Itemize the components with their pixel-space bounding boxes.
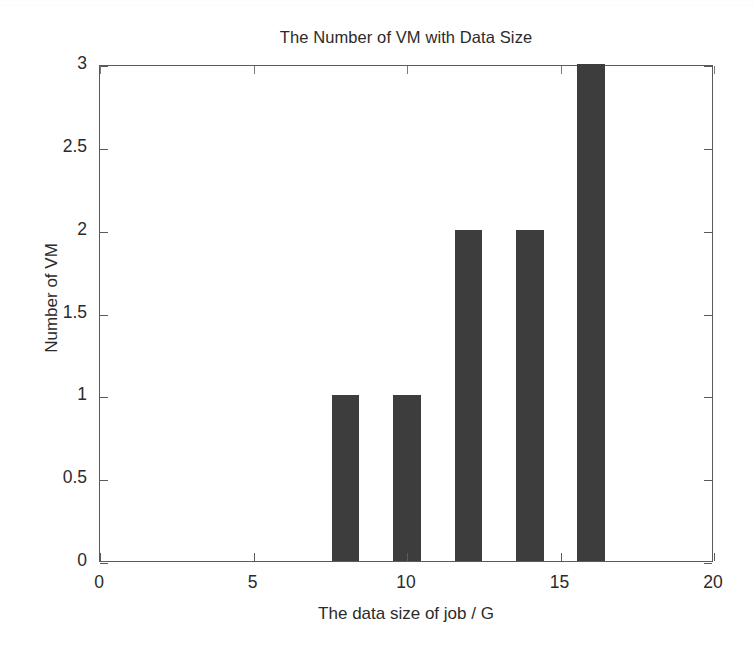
x-axis-tick — [254, 66, 255, 74]
y-axis-tick — [100, 232, 108, 233]
x-axis-tick — [561, 66, 562, 74]
y-axis-title: Number of VM — [42, 198, 62, 398]
y-axis-tick — [100, 315, 108, 316]
x-axis-tick-label: 0 — [69, 572, 129, 593]
y-axis-tick — [100, 563, 108, 564]
y-axis-tick — [704, 232, 712, 233]
y-axis-tick — [704, 66, 712, 67]
y-axis-tick — [100, 149, 108, 150]
y-axis-tick — [100, 66, 108, 67]
x-axis-tick-label: 20 — [683, 572, 743, 593]
y-axis-tick — [100, 480, 108, 481]
x-axis-tick — [407, 553, 408, 561]
y-axis-tick — [704, 397, 712, 398]
y-axis-tick — [704, 480, 712, 481]
x-axis-tick — [100, 66, 101, 74]
x-axis-tick — [714, 66, 715, 74]
bar — [516, 230, 544, 561]
y-axis-tick-label: 2.5 — [7, 136, 87, 157]
x-axis-tick-label: 15 — [530, 572, 590, 593]
y-axis-tick — [704, 315, 712, 316]
y-axis-tick-label: 3 — [7, 53, 87, 74]
x-axis-title: The data size of job / G — [99, 604, 713, 624]
x-axis-tick — [407, 66, 408, 74]
y-axis-tick-label: 0.5 — [7, 467, 87, 488]
bar — [332, 395, 360, 561]
bars-layer — [100, 66, 712, 561]
x-axis-tick-label: 10 — [376, 572, 436, 593]
bar — [393, 395, 421, 561]
x-axis-tick — [561, 553, 562, 561]
x-axis-tick — [714, 553, 715, 561]
chart-title: The Number of VM with Data Size — [99, 28, 713, 47]
plot-area — [99, 65, 713, 562]
x-axis-tick-label: 5 — [223, 572, 283, 593]
y-axis-tick — [704, 563, 712, 564]
y-axis-tick-label: 0 — [7, 550, 87, 571]
bar-chart-figure: The Number of VM with Data Size 00.511.5… — [0, 0, 754, 650]
y-axis-tick — [704, 149, 712, 150]
y-axis-tick — [100, 397, 108, 398]
x-axis-tick — [100, 553, 101, 561]
bar — [577, 64, 605, 561]
x-axis-tick — [254, 553, 255, 561]
bar — [455, 230, 483, 561]
